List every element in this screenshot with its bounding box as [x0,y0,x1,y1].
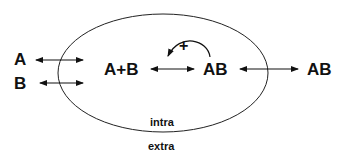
cell-membrane [58,14,268,132]
complex-outside-label: AB [307,61,332,78]
extra-label: extra [148,141,174,152]
intra-label: intra [150,117,174,128]
feedback-arrow [168,41,210,57]
species-a-label: A [14,51,26,68]
complex-formation-label: A+B [104,61,138,78]
complex-inside-label: AB [203,61,228,78]
diagram-canvas [0,0,345,162]
species-b-label: B [14,75,26,92]
positive-feedback-sign: + [179,38,188,54]
